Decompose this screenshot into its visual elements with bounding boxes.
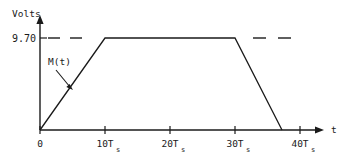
x-tick-label-30ts: 30T s: [226, 138, 250, 154]
x-tick-label-10ts: 10T s: [96, 138, 120, 154]
x-tick-label-20ts-subscript: s: [181, 146, 185, 154]
x-tick-label-40ts-text: 40T: [291, 138, 308, 149]
annotation-m-of-t-label: M(t): [48, 56, 71, 67]
x-axis-title: t: [331, 124, 337, 135]
x-axis-arrowhead: [315, 126, 324, 133]
x-tick-label-20ts-text: 20T: [161, 138, 178, 149]
waveform-trace-m-of-t: [40, 38, 282, 130]
annotation-leader-line: [56, 70, 70, 87]
x-tick-label-10ts-text: 10T: [96, 138, 113, 149]
x-tick-label-40ts: 40T s: [291, 138, 315, 154]
waveform-figure: Volts t 9.70 0 10T s 20T: [0, 0, 344, 158]
plot-canvas: Volts t 9.70 0 10T s 20T: [0, 0, 344, 158]
x-tick-label-10ts-subscript: s: [116, 146, 120, 154]
x-tick-label-30ts-text: 30T: [226, 138, 243, 149]
annotation-m-of-t: M(t): [48, 56, 73, 90]
y-axis-title: Volts: [12, 8, 41, 19]
x-tick-label-0: 0: [37, 138, 43, 149]
x-tick-label-20ts: 20T s: [161, 138, 185, 154]
x-tick-label-30ts-subscript: s: [246, 146, 250, 154]
x-tick-label-40ts-subscript: s: [311, 146, 315, 154]
y-tick-label-9-70: 9.70: [12, 33, 36, 44]
